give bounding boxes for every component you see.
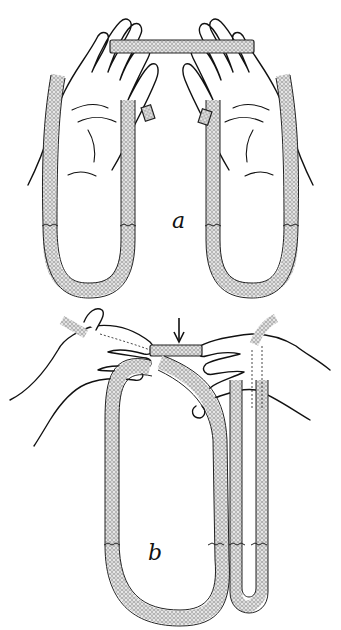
- panel-label-b: b: [148, 542, 162, 564]
- arrow-down-icon: [174, 318, 184, 342]
- top-band-a: [110, 40, 254, 53]
- figure-drawing: [0, 0, 341, 630]
- top-band-b: [150, 345, 202, 356]
- panel-b: [10, 309, 330, 626]
- illustration: a b: [0, 0, 341, 630]
- panel-a: [28, 19, 313, 298]
- panel-label-a: a: [172, 210, 185, 232]
